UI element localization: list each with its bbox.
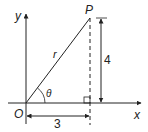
vertical-length-label: 4: [104, 53, 111, 67]
horizontal-length-label: 3: [54, 117, 61, 131]
point-p-label: P: [85, 3, 93, 17]
angle-arc: [38, 88, 46, 103]
hypotenuse-label: r: [53, 48, 58, 60]
polar-coordinate-diagram: y x O P r θ 4 3: [0, 0, 148, 132]
hypotenuse-line: [26, 18, 90, 103]
x-axis-label: x: [133, 108, 141, 122]
right-angle-marker: [84, 97, 90, 103]
angle-theta-label: θ: [46, 88, 52, 99]
y-axis-label: y: [14, 9, 22, 23]
origin-label: O: [14, 107, 23, 121]
